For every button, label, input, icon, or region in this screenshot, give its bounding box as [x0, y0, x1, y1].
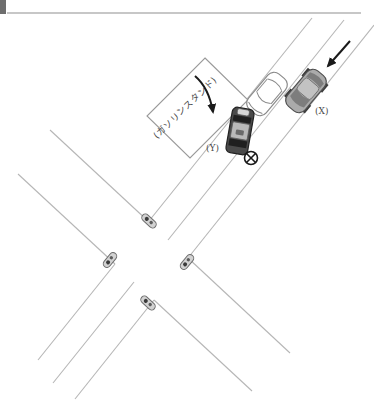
traffic-accident-diagram: (ガソリンスタンド)	[0, 0, 374, 415]
motorcycle-north	[140, 212, 157, 229]
cross-road-north-edge-lower	[188, 258, 290, 353]
intersection-vehicles	[102, 212, 195, 311]
collision-marker-icon	[245, 152, 258, 165]
car-x-direction-arrow	[328, 41, 350, 66]
cross-road-lines	[18, 130, 290, 391]
cross-road-south-edge-lower	[154, 300, 252, 391]
main-road-right-edge-lower	[75, 300, 154, 399]
main-road-center-line-lower	[53, 282, 134, 383]
main-road-right-edge-upper	[188, 25, 374, 258]
motorcycle-south	[139, 294, 156, 311]
main-road-left-edge-lower	[38, 264, 115, 360]
cross-road-north-edge-upper	[50, 130, 149, 222]
car-x-label: (X)	[315, 106, 328, 116]
car-x-group: (X)	[281, 65, 331, 118]
car-y-label: (Y)	[206, 143, 219, 153]
diagram-svg: (ガソリンスタンド)	[0, 0, 374, 415]
cross-road-south-edge-upper	[18, 174, 115, 264]
header-accent-square	[0, 0, 6, 14]
